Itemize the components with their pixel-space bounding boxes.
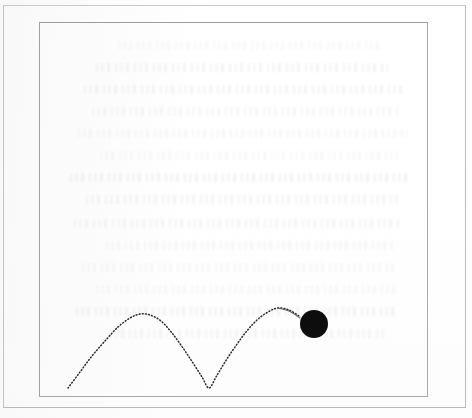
ghost-text-line xyxy=(84,85,402,94)
ghost-text-line xyxy=(118,41,384,50)
inner-plot-frame xyxy=(39,22,428,397)
ghost-text-line xyxy=(96,63,388,72)
ghost-text-line xyxy=(92,107,398,116)
ghost-text-line xyxy=(70,173,408,182)
ghost-text-line xyxy=(74,219,400,228)
ghost-text-line xyxy=(78,129,408,138)
background-ghost-text xyxy=(40,23,427,396)
ghost-text-line xyxy=(76,307,398,316)
ghost-text-line xyxy=(100,151,398,160)
ghost-text-line xyxy=(82,263,396,272)
figure-canvas xyxy=(0,0,472,418)
ghost-text-line xyxy=(110,329,384,338)
ghost-text-line xyxy=(96,285,396,294)
ghost-text-line xyxy=(106,241,394,250)
ghost-text-line xyxy=(86,195,398,204)
